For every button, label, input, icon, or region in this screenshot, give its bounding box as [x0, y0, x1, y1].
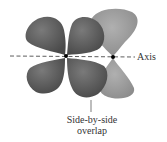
axis-label: Axis [137, 51, 156, 62]
d-orbital-lower-left-lobe [27, 58, 65, 94]
d-orbital-nucleus-dot [64, 54, 68, 58]
overlap-label-line1: Side-by-side [60, 114, 124, 125]
p-orbital-nucleus-dot [111, 55, 115, 59]
d-orbital-upper-left-lobe [26, 17, 66, 55]
axis-line [10, 56, 135, 57]
overlap-label-line2: overlap [60, 125, 124, 136]
overlap-label: Side-by-side overlap [60, 114, 124, 136]
